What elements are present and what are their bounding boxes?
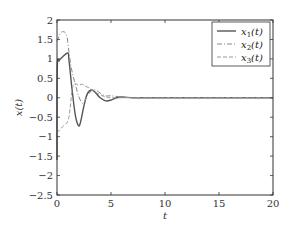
y-tick-label: 0 [47,92,53,103]
y-tick-label: 2 [47,15,53,26]
y-tick-label: 1.5 [37,34,53,45]
y-tick-label: 1 [47,53,53,64]
y-tick-label: −0.5 [29,112,53,123]
y-tick-label: −2 [38,170,53,181]
y-tick-label: −2.5 [29,190,53,201]
y-axis-label: x(t) [13,99,24,117]
y-tick-label: 0.5 [37,73,53,84]
x-tick-label: 20 [267,198,280,209]
x-tick-label: 10 [159,198,172,209]
x-tick-label: 15 [213,198,226,209]
y-axis-label-group: x(t) [13,99,24,117]
legend: x1(t)x2(t)x3(t) [212,22,270,66]
x-tick-label: 0 [54,198,60,209]
x-tick-label: 5 [108,198,114,209]
line-chart: 0510152021.510.50−0.5−1−1.5−2−2.5 t x(t)… [0,0,288,228]
y-tick-label: −1.5 [29,151,53,162]
y-tick-label: −1 [38,131,53,142]
